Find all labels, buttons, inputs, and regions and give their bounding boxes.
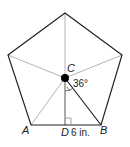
pentagon-diagram: C 36° A B D 6 in.	[0, 0, 130, 147]
label-d: D	[61, 126, 69, 138]
label-angle: 36°	[73, 78, 88, 89]
right-angle-marker	[65, 118, 71, 125]
label-a: A	[21, 124, 29, 136]
label-c: C	[67, 62, 75, 74]
label-length: 6 in.	[71, 127, 90, 138]
label-b: B	[100, 124, 107, 136]
center-dot	[61, 74, 69, 82]
